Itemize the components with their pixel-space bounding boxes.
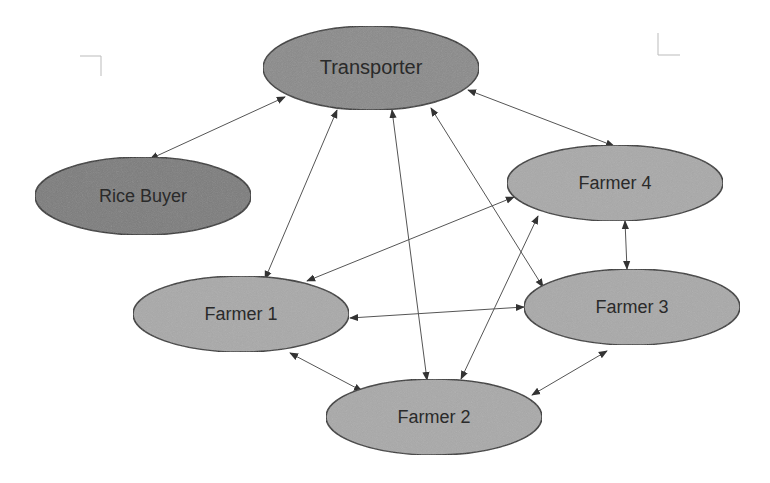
edge-farmer-1-farmer-2 (290, 353, 362, 391)
edge-transporter-farmer-2 (392, 110, 427, 380)
node-farmer-1: Farmer 1 (133, 276, 349, 352)
edge-farmer-4-farmer-3 (625, 221, 627, 269)
edge-transporter-farmer-4 (468, 90, 614, 146)
network-diagram: TransporterRice BuyerFarmer 4Farmer 1Far… (0, 0, 770, 483)
nodes-layer: TransporterRice BuyerFarmer 4Farmer 1Far… (35, 26, 740, 455)
node-rice-buyer: Rice Buyer (35, 157, 251, 235)
edge-farmer-1-farmer-3 (350, 307, 524, 318)
node-label-farmer-1: Farmer 1 (204, 304, 277, 324)
edge-farmer-4-farmer-1 (307, 197, 514, 281)
node-label-farmer-2: Farmer 2 (397, 407, 470, 427)
node-label-farmer-4: Farmer 4 (578, 173, 651, 193)
node-label-rice-buyer: Rice Buyer (99, 186, 187, 206)
node-label-transporter: Transporter (320, 56, 423, 78)
node-farmer-2: Farmer 2 (326, 379, 542, 455)
node-transporter: Transporter (263, 26, 479, 110)
edge-farmer-3-farmer-2 (532, 351, 607, 395)
node-label-farmer-3: Farmer 3 (595, 297, 668, 317)
node-farmer-4: Farmer 4 (507, 145, 723, 221)
node-farmer-3: Farmer 3 (524, 269, 740, 345)
edge-transporter-rice-buyer (150, 97, 285, 159)
edge-transporter-farmer-1 (265, 110, 337, 279)
